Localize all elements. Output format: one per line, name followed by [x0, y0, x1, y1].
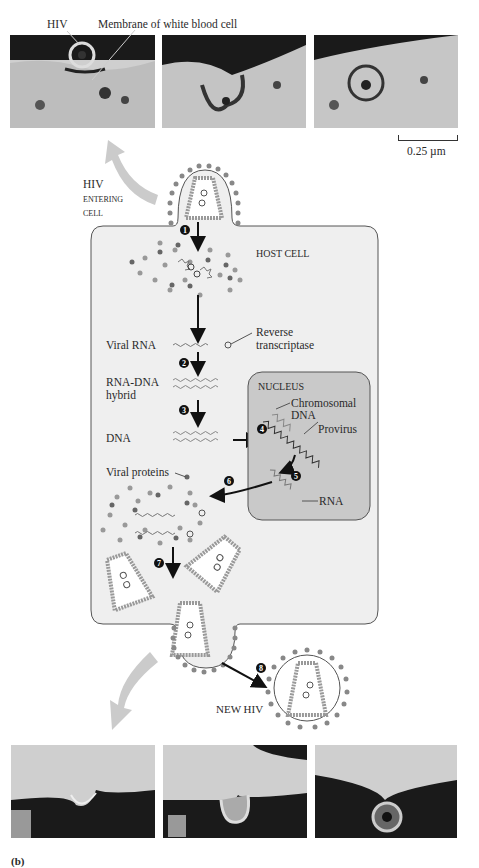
svg-text:2: 2: [182, 359, 186, 368]
micrograph-budding-1: [11, 745, 155, 838]
scale-bar: [398, 135, 458, 141]
scale-bar-label: 0.25 µm: [407, 145, 446, 158]
micrograph-entry-3: [314, 35, 458, 128]
micrograph-budding-3: [315, 745, 457, 838]
dna-label: DNA: [106, 432, 131, 445]
hiv-label: HIV: [47, 18, 67, 31]
provirus-label: Provirus: [318, 423, 357, 436]
svg-text:8: 8: [259, 664, 263, 673]
hiv-entering-label-3: CELL: [83, 207, 103, 220]
micrograph-entry-1: [10, 35, 155, 128]
svg-text:6: 6: [227, 477, 231, 486]
svg-text:4: 4: [260, 425, 264, 434]
rna-label: RNA: [319, 495, 343, 508]
membrane-label: Membrane of white blood cell: [98, 18, 237, 31]
reverse-transcriptase-label-1: Reverse: [256, 326, 293, 339]
nucleus-label: NUCLEUS: [258, 380, 304, 393]
hiv-entering-label-1: HIV: [83, 178, 103, 191]
hiv-entering-label-2: ENTERING: [83, 193, 123, 206]
svg-text:5: 5: [294, 472, 298, 481]
chromosomal-dna-label-2: DNA: [291, 409, 316, 422]
micrograph-budding-2: [163, 745, 307, 838]
rna-dna-hybrid-label-2: hybrid: [106, 389, 136, 402]
rna-dna-hybrid-label-1: RNA-DNA: [106, 376, 159, 389]
svg-text:7: 7: [157, 559, 161, 568]
svg-text:3: 3: [182, 406, 186, 415]
viral-rna-label: Viral RNA: [106, 339, 156, 352]
svg-text:1: 1: [183, 226, 187, 235]
reverse-transcriptase-label-2: transcriptase: [256, 339, 314, 352]
figure-label: (b): [11, 855, 24, 868]
new-hiv-label: NEW HIV: [216, 703, 263, 716]
grey-arrow-down: [110, 652, 158, 730]
viral-proteins-label: Viral proteins: [106, 466, 169, 479]
host-cell-label: HOST CELL: [256, 247, 309, 260]
micrograph-entry-2: [162, 35, 306, 128]
